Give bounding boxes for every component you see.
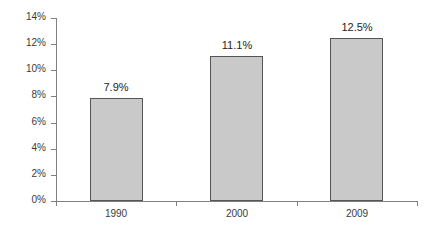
bar-value-label: 12.5% bbox=[317, 21, 397, 33]
y-axis-tick bbox=[51, 44, 56, 45]
x-axis-category-label: 2009 bbox=[317, 208, 397, 219]
y-axis-tick bbox=[51, 175, 56, 176]
y-axis-tick bbox=[51, 18, 56, 19]
bar-chart: 0%2%4%6%8%10%12%14% 7.9%11.1%12.5% 19902… bbox=[0, 0, 432, 232]
bar-value-label: 7.9% bbox=[76, 81, 156, 93]
y-axis-tick bbox=[51, 96, 56, 97]
y-axis-tick-label: 4% bbox=[2, 142, 46, 153]
y-axis-tick-label: 10% bbox=[2, 63, 46, 74]
y-axis-tick-label: 0% bbox=[2, 194, 46, 205]
bar-value-label: 11.1% bbox=[197, 39, 277, 51]
x-axis-tick bbox=[56, 201, 57, 206]
x-axis-tick bbox=[417, 201, 418, 206]
y-axis-tick bbox=[51, 123, 56, 124]
y-axis-tick-label: 14% bbox=[2, 11, 46, 22]
bar bbox=[90, 98, 143, 201]
y-axis-tick-label: 12% bbox=[2, 37, 46, 48]
x-axis-line bbox=[56, 201, 418, 202]
y-axis-tick-label: 2% bbox=[2, 168, 46, 179]
y-axis-tick-label: 6% bbox=[2, 116, 46, 127]
y-axis-tick bbox=[51, 149, 56, 150]
x-axis-category-label: 2000 bbox=[197, 208, 277, 219]
x-axis-tick bbox=[176, 201, 177, 206]
y-axis-tick-label: 8% bbox=[2, 89, 46, 100]
bar bbox=[330, 38, 383, 201]
y-axis-line bbox=[56, 18, 57, 202]
bar bbox=[210, 56, 263, 201]
x-axis-tick bbox=[297, 201, 298, 206]
x-axis-category-label: 1990 bbox=[76, 208, 156, 219]
y-axis-tick bbox=[51, 70, 56, 71]
